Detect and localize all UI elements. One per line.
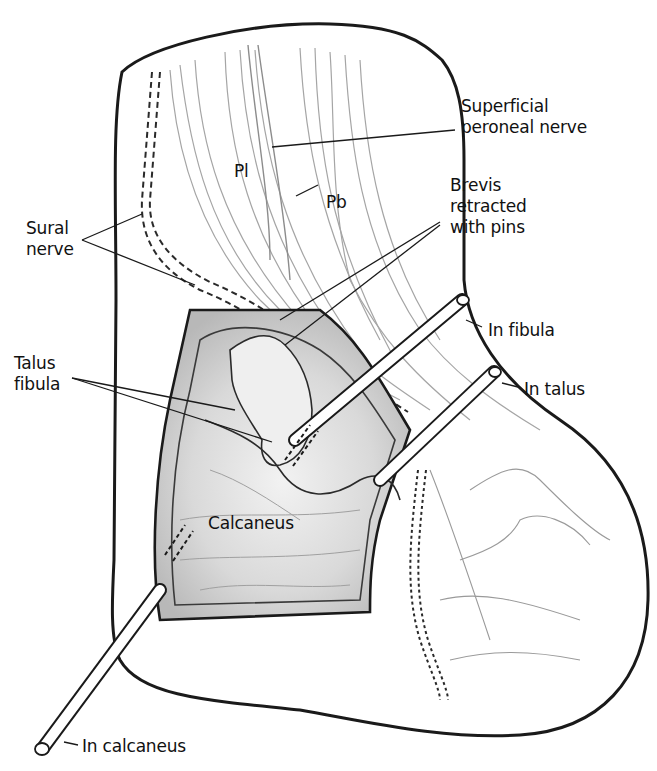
label-peroneus-longus: Pl	[234, 161, 249, 182]
label-calcaneus: Calcaneus	[208, 513, 294, 534]
ankle-surgical-diagram: Superficial peroneal nerve Pl Pb Brevis …	[0, 0, 657, 771]
label-in-talus: In talus	[524, 379, 585, 400]
label-sural-nerve: Sural nerve	[26, 218, 74, 260]
label-in-calcaneus: In calcaneus	[82, 736, 186, 757]
label-superficial-peroneal-nerve: Superficial peroneal nerve	[461, 96, 587, 138]
label-brevis-retracted-with-pins: Brevis retracted with pins	[450, 175, 527, 238]
label-peroneus-brevis: Pb	[326, 192, 347, 213]
label-in-fibula: In fibula	[488, 320, 555, 341]
label-talus-fibula: Talus fibula	[14, 353, 60, 395]
